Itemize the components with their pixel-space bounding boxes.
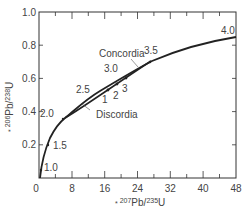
discordia-point [125,77,128,80]
y-axis-ticks [39,45,236,145]
age-label: 1.5 [53,140,67,151]
age-label: 2.0 [40,108,54,119]
x-tick-label: 16 [99,183,111,194]
concordia-point [47,144,49,146]
concordia-point [62,118,64,120]
y-axis-title: * 206Pb/238U [4,82,15,132]
age-label: 3.5 [144,45,158,56]
y-tick-label: 0.4 [22,106,36,117]
x-tick-label: 24 [132,183,144,194]
age-label: 3.0 [104,63,118,74]
discordia-point-label: 3 [122,83,128,94]
chart-container: 0 8 16 24 32 40 48 0.2 0.4 0.6 0.8 1.0 1… [0,0,249,215]
discordia-point [116,83,119,86]
concordia-chart: 0 8 16 24 32 40 48 0.2 0.4 0.6 0.8 1.0 1… [0,0,249,215]
y-tick-label: 0.2 [22,139,36,150]
discordia-point-label: 2 [113,90,119,101]
x-tick-label: 48 [230,183,242,194]
discordia-label: Discordia [96,109,138,120]
x-tick-label: 0 [33,183,39,194]
y-tick-label: 1.0 [22,7,36,18]
age-label: 1.0 [44,162,58,173]
plot-frame [39,12,236,178]
concordia-point [40,169,42,171]
y-tick-label: 0.6 [22,73,36,84]
x-tick-label: 40 [198,183,210,194]
discordia-point [107,89,110,92]
concordia-leader [131,59,138,67]
x-axis-title: * 207Pb/235U [115,197,165,208]
x-tick-label: 32 [165,183,177,194]
y-tick-label: 0.8 [22,40,36,51]
concordia-label: Concordia [99,48,145,59]
age-label: 4.0 [221,25,235,36]
x-tick-label: 8 [69,183,75,194]
age-label: 2.5 [76,84,90,95]
x-axis-ticks [55,12,219,178]
concordia-point [149,61,151,63]
discordia-point-label: 1 [102,94,108,105]
